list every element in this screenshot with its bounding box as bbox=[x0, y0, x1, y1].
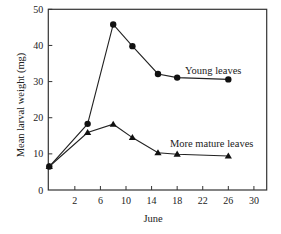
x-tick-label: 2 bbox=[72, 195, 77, 206]
x-tick-label: 30 bbox=[249, 195, 259, 206]
x-axis-ticks: 26101418222630 bbox=[72, 186, 259, 206]
y-tick-label: 30 bbox=[33, 76, 43, 87]
data-point-young-leaves bbox=[110, 21, 116, 27]
x-tick-label: 6 bbox=[98, 195, 103, 206]
y-tick-label: 20 bbox=[33, 112, 43, 123]
line-chart: 26101418222630 01020304050 Young leaves … bbox=[0, 0, 281, 234]
x-tick-label: 26 bbox=[223, 195, 233, 206]
data-point-young-leaves bbox=[84, 121, 90, 127]
y-tick-label: 50 bbox=[33, 4, 43, 15]
plot-frame bbox=[48, 9, 266, 190]
x-tick-label: 10 bbox=[121, 195, 131, 206]
y-tick-label: 10 bbox=[33, 148, 43, 159]
x-axis-label: June bbox=[143, 213, 163, 224]
y-tick-label: 0 bbox=[38, 185, 43, 196]
data-point-more-mature-leaves bbox=[129, 134, 136, 140]
y-tick-label: 40 bbox=[33, 40, 43, 51]
y-axis-label: Mean larval weight (mg) bbox=[15, 52, 27, 157]
x-tick-label: 18 bbox=[172, 195, 182, 206]
data-point-young-leaves bbox=[174, 74, 180, 80]
x-tick-label: 14 bbox=[147, 195, 157, 206]
x-tick-label: 22 bbox=[198, 195, 208, 206]
series-label-more-mature-leaves: More mature leaves bbox=[170, 138, 253, 149]
series-label-young-leaves: Young leaves bbox=[185, 65, 241, 76]
data-point-more-mature-leaves bbox=[154, 149, 161, 155]
data-point-young-leaves bbox=[225, 76, 231, 82]
data-point-young-leaves bbox=[129, 43, 135, 49]
data-point-more-mature-leaves bbox=[110, 121, 117, 127]
data-point-young-leaves bbox=[155, 71, 161, 77]
